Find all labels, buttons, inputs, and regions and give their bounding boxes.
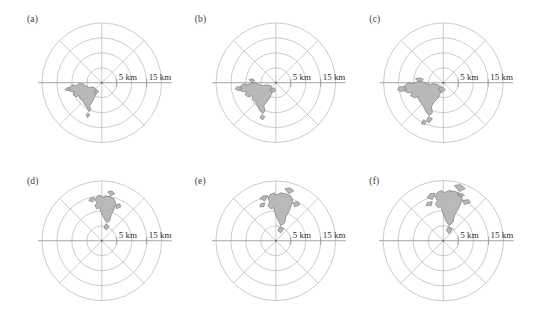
radial-tick-label-5km-c: 5 km <box>461 72 479 82</box>
urban-footprint-b <box>235 79 276 120</box>
polar-plot-svg-c: 5 km 15 km <box>361 0 542 164</box>
polar-plot-a: 5 km 15 km <box>0 0 181 164</box>
polar-plot-c: 5 km 15 km <box>361 0 542 164</box>
radial-tick-label-15km-b: 15 km <box>322 72 345 82</box>
plot-center-c <box>443 82 445 84</box>
polar-plot-d: 5 km 15 km <box>0 164 181 327</box>
plot-center-e <box>274 239 276 241</box>
plot-center-a <box>101 82 103 84</box>
radial-tick-label-5km-a: 5 km <box>119 72 137 82</box>
panel-d: (d) 5 km 1 <box>0 164 181 327</box>
polar-plot-svg-e: 5 km 15 km <box>181 164 362 327</box>
polar-plot-svg-a: 5 km 15 km <box>0 0 181 164</box>
radial-tick-label-5km-e: 5 km <box>292 229 310 239</box>
polar-plot-e: 5 km 15 km <box>181 164 362 327</box>
panel-f: (f) 5 km 1 <box>361 164 542 327</box>
plot-center-b <box>274 82 276 84</box>
figure-panel-grid: (a) 5 km 1 <box>0 0 542 327</box>
plot-center-f <box>443 239 445 241</box>
polar-plot-b: 5 km 15 km <box>181 0 362 164</box>
radial-tick-label-15km-f: 15 km <box>491 229 514 239</box>
radial-tick-label-15km-e: 15 km <box>322 229 345 239</box>
radial-tick-label-15km-d: 15 km <box>149 229 172 239</box>
polar-plot-svg-f: 5 km 15 km <box>361 164 542 327</box>
polar-plot-f: 5 km 15 km <box>361 164 542 327</box>
panel-b: (b) 5 km 1 <box>181 0 362 164</box>
polar-plot-svg-b: 5 km 15 km <box>181 0 362 164</box>
panel-c: (c) 5 km 1 <box>361 0 542 164</box>
radial-tick-label-5km-d: 5 km <box>119 229 137 239</box>
radial-tick-label-15km-c: 15 km <box>491 72 514 82</box>
polar-plot-svg-d: 5 km 15 km <box>0 164 181 327</box>
panel-e: (e) 5 km 1 <box>181 164 362 327</box>
radial-tick-label-5km-b: 5 km <box>292 72 310 82</box>
urban-footprint-c <box>398 78 446 125</box>
panel-a: (a) 5 km 1 <box>0 0 181 164</box>
plot-center-d <box>101 239 103 241</box>
urban-footprint-a <box>65 84 99 118</box>
radial-tick-label-15km-a: 15 km <box>149 72 172 82</box>
radial-tick-label-5km-f: 5 km <box>461 229 479 239</box>
